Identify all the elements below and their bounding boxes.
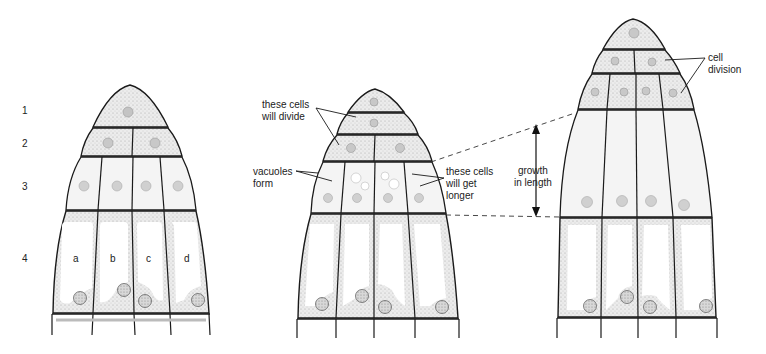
cell-label-d: d [184, 253, 190, 264]
cell-label-c: c [146, 253, 151, 264]
row-label-1: 1 [22, 105, 28, 116]
annotation-growth-in-length: growth in length [514, 165, 552, 189]
stage-3-root-tip [557, 19, 717, 338]
stage-2-root-tip [296, 89, 459, 338]
cell-label-a: a [73, 253, 79, 264]
root-tip-diagram [0, 0, 766, 354]
annotation-vacuoles-form: vacuoles form [253, 166, 292, 190]
annotation-will-divide: these cells will divide [262, 99, 309, 123]
row-label-4: 4 [22, 253, 28, 264]
cell-label-b: b [110, 253, 116, 264]
stage-1-root-tip [52, 85, 210, 335]
row-label-3: 3 [22, 181, 28, 192]
row-label-2: 2 [22, 138, 28, 149]
annotation-cell-division: cell division [708, 52, 741, 76]
annotation-get-longer: these cells will get longer [446, 166, 493, 202]
